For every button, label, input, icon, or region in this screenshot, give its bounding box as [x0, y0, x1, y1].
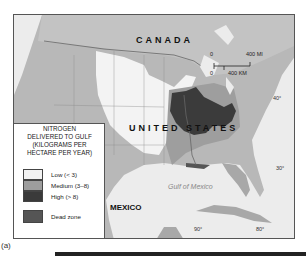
- legend-label-medium: Medium (3–8): [51, 182, 89, 189]
- legend-title: NITROGEN DELIVERED TO GULF (KILOGRAMS PE…: [14, 125, 105, 157]
- scale-miles: 400 MI: [246, 51, 263, 57]
- legend-label-high: High (> 8): [51, 193, 78, 200]
- longitude-80: 80°: [256, 226, 264, 232]
- legend-swatch-dead-zone: [23, 210, 43, 223]
- label-united-states: UNITED STATES: [129, 123, 238, 133]
- latitude-40: 40°: [273, 95, 281, 101]
- scale-km: 400 KM: [228, 70, 247, 76]
- legend-swatch-medium: [23, 180, 43, 191]
- legend-title-line: DELIVERED TO GULF: [14, 133, 105, 141]
- latitude-30: 30°: [276, 165, 284, 171]
- label-gulf-of-mexico: Gulf of Mexico: [168, 183, 213, 190]
- legend-swatch-high: [23, 191, 43, 202]
- legend-label-dead-zone: Dead zone: [51, 213, 81, 220]
- legend-title-line: HECTARE PER YEAR): [14, 149, 105, 157]
- nitrogen-map: CANADA UNITED STATES MEXICO Gulf of Mexi…: [13, 14, 295, 239]
- figure-caption: (a): [1, 241, 11, 250]
- legend-title-line: NITROGEN: [14, 125, 105, 133]
- label-mexico: MEXICO: [110, 203, 142, 212]
- legend-swatch-low: [23, 169, 43, 180]
- legend-title-line: (KILOGRAMS PER: [14, 141, 105, 149]
- bottom-image-edge: [55, 252, 306, 256]
- legend-label-low: Low (< 3): [51, 171, 77, 178]
- label-canada: CANADA: [136, 35, 193, 45]
- scale-zero-top: 0: [210, 51, 213, 57]
- map-legend: NITROGEN DELIVERED TO GULF (KILOGRAMS PE…: [14, 123, 105, 239]
- scale-zero-bottom: 0: [210, 70, 213, 76]
- longitude-90: 90°: [194, 226, 202, 232]
